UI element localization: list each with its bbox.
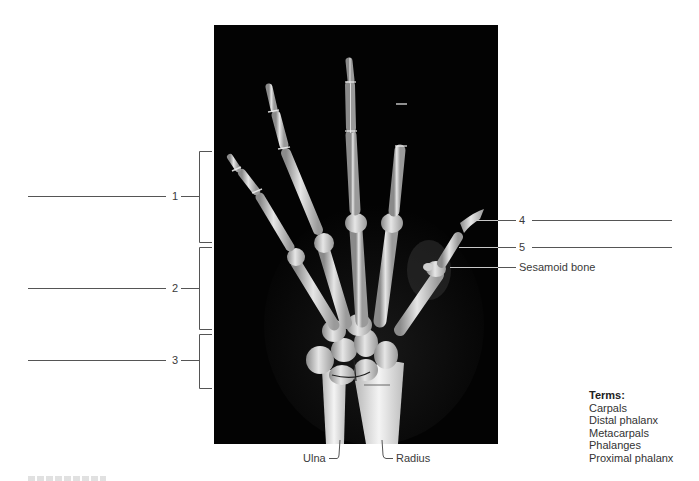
term-item: Distal phalanx xyxy=(589,414,673,427)
label-sesamoid-bone: Sesamoid bone xyxy=(519,261,595,273)
hand-bones-illustration xyxy=(214,25,498,444)
terms-list: Terms: Carpals Distal phalanx Metacarpal… xyxy=(589,389,673,465)
bracket-3 xyxy=(200,335,213,389)
bracket-1 xyxy=(200,152,213,243)
label-number-2: 2 xyxy=(170,282,180,294)
term-item: Carpals xyxy=(589,402,673,415)
hand-xray-image xyxy=(214,25,498,444)
terms-title: Terms: xyxy=(589,389,673,402)
label-number-1: 1 xyxy=(170,190,180,202)
term-item: Proximal phalanx xyxy=(589,452,673,465)
label-number-5: 5 xyxy=(517,241,527,253)
term-item: Phalanges xyxy=(589,439,673,452)
label-ulna: Ulna xyxy=(303,452,326,464)
label-number-3: 3 xyxy=(170,354,180,366)
term-item: Metacarpals xyxy=(589,427,673,440)
bracket-2 xyxy=(200,248,213,330)
label-radius: Radius xyxy=(396,452,430,464)
label-number-4: 4 xyxy=(517,214,527,226)
figure-caption-clipped xyxy=(28,476,106,481)
